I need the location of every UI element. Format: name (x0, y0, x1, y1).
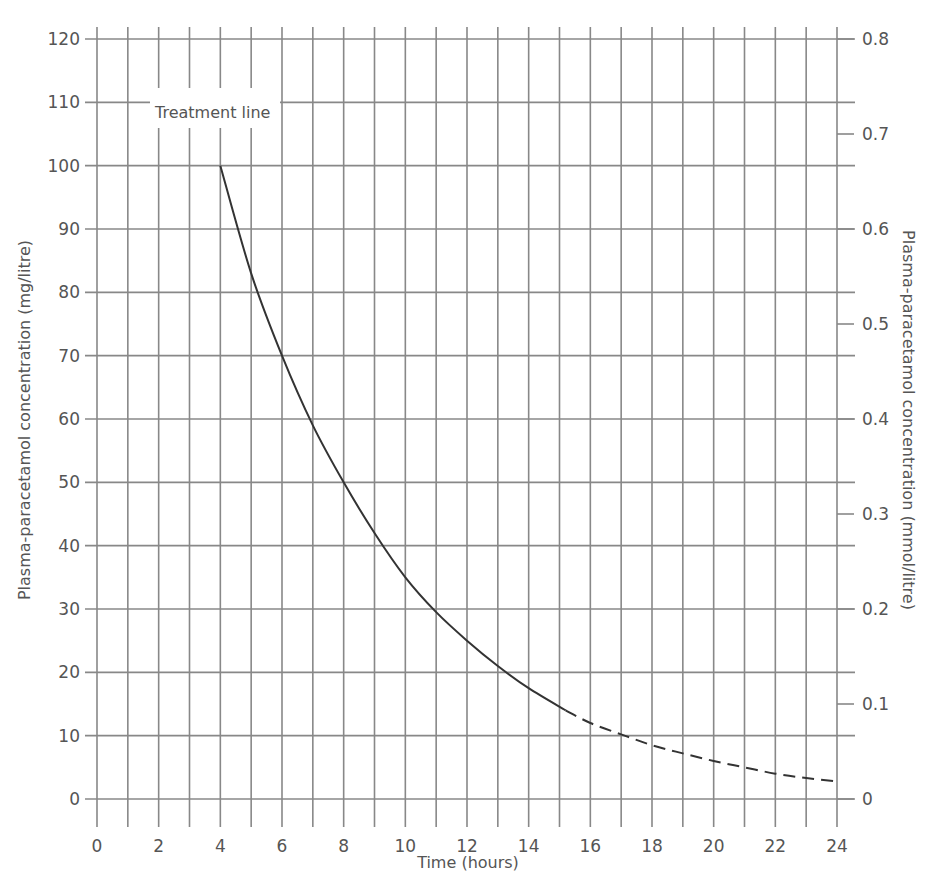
x-tick-label: 10 (395, 836, 417, 856)
x-tick-label: 0 (92, 836, 103, 856)
y-tick-label: 120 (48, 29, 80, 49)
y-tick-label: 50 (58, 472, 80, 492)
x-axis-label: Time (hours) (416, 853, 519, 872)
y-right-tick-label: 0.1 (862, 694, 889, 714)
y-axis-left-label: Plasma-paracetamol concentration (mg/lit… (15, 240, 34, 600)
y-right-tick-label: 0 (862, 789, 873, 809)
x-tick-label: 24 (826, 836, 848, 856)
y-axis-left-ticks: 0102030405060708090100110120 (48, 29, 80, 809)
y-tick-label: 100 (48, 156, 80, 176)
y-tick-label: 80 (58, 282, 80, 302)
y-tick-label: 10 (58, 726, 80, 746)
y-tick-label: 60 (58, 409, 80, 429)
x-tick-label: 16 (580, 836, 602, 856)
x-tick-label: 8 (338, 836, 349, 856)
y-tick-label: 40 (58, 536, 80, 556)
x-tick-label: 14 (518, 836, 540, 856)
y-right-tick-label: 0.5 (862, 314, 889, 334)
y-tick-label: 110 (48, 92, 80, 112)
y-axis-right-ticks: 00.10.20.30.40.50.60.70.8 (837, 29, 889, 809)
chart: 0102030405060708090100110120 02468101214… (0, 0, 936, 895)
grid (85, 27, 855, 827)
x-tick-label: 2 (153, 836, 164, 856)
y-axis-right-label: Plasma-paracetamol concentration (mmol/l… (899, 230, 918, 610)
y-tick-label: 90 (58, 219, 80, 239)
y-right-tick-label: 0.6 (862, 219, 889, 239)
treatment-line-annotation: Treatment line (154, 103, 270, 122)
y-tick-label: 30 (58, 599, 80, 619)
x-tick-label: 18 (641, 836, 663, 856)
y-right-tick-label: 0.2 (862, 599, 889, 619)
y-right-tick-label: 0.7 (862, 124, 889, 144)
y-tick-label: 70 (58, 346, 80, 366)
x-tick-label: 4 (215, 836, 226, 856)
y-tick-label: 20 (58, 662, 80, 682)
y-right-tick-label: 0.4 (862, 409, 889, 429)
x-tick-label: 6 (277, 836, 288, 856)
treatment-line-solid (220, 166, 565, 711)
y-right-tick-label: 0.3 (862, 504, 889, 524)
y-right-tick-label: 0.8 (862, 29, 889, 49)
x-tick-label: 22 (765, 836, 787, 856)
x-tick-label: 20 (703, 836, 725, 856)
treatment-line-dashed (566, 710, 837, 781)
y-tick-label: 0 (69, 789, 80, 809)
